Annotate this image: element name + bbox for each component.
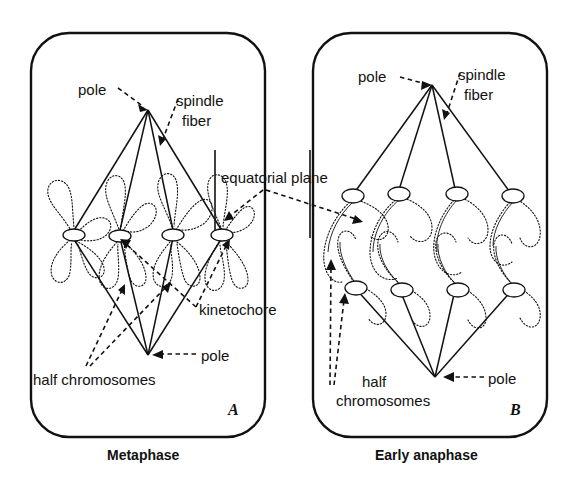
kinetochore-b-4l [503, 283, 525, 297]
label-half-chromosomes-b-2: chromosomes [336, 392, 430, 409]
caption-early-anaphase: Early anaphase [375, 447, 478, 463]
label-spindle-fiber-b-2: fiber [464, 86, 493, 103]
kinetochore-a-4 [211, 229, 233, 241]
label-pole-bottom-b: pole [488, 370, 516, 387]
label-equatorial-plane: equatorial plane [221, 169, 328, 186]
kinetochore-b-4u [502, 189, 524, 203]
label-half-chromosomes-a: half chromosomes [33, 371, 156, 388]
kinetochore-a-1 [63, 229, 85, 241]
label-spindle-fiber-b: spindle [458, 66, 506, 83]
kinetochore-b-2u [388, 187, 410, 201]
label-half-chromosomes-b: half [362, 373, 387, 390]
kinetochore-b-1l [345, 281, 367, 295]
label-pole-bottom-a: pole [201, 347, 229, 364]
label-kinetochore-a: kinetochore [199, 301, 277, 318]
mitosis-diagram: pole spindle fiber kinetochore half chro… [0, 0, 577, 493]
kinetochore-b-1u [342, 189, 364, 203]
panel-letter-a: A [227, 401, 239, 418]
kinetochore-b-3u [446, 187, 468, 201]
kinetochore-b-3l [447, 283, 469, 297]
figure-canvas: pole spindle fiber kinetochore half chro… [0, 0, 577, 493]
label-spindle-fiber-a: spindle [176, 92, 224, 109]
kinetochore-b-2l [391, 283, 413, 297]
panel-letter-b: B [509, 401, 521, 418]
label-spindle-fiber-a-2: fiber [182, 112, 211, 129]
kinetochore-a-3 [162, 229, 184, 241]
label-pole-top-b: pole [358, 68, 386, 85]
label-pole-top-a: pole [78, 81, 106, 98]
caption-metaphase: Metaphase [107, 447, 180, 463]
